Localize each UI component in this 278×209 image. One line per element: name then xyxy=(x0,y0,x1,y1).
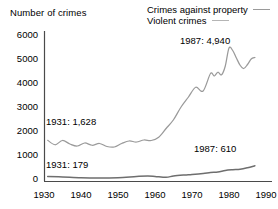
crime-statistics-line-chart: Number of crimes Crimes against property… xyxy=(0,0,278,209)
series-line-crimes-against-property xyxy=(48,47,255,147)
chart-plot-area xyxy=(0,0,278,209)
series-line-violent-crimes xyxy=(48,166,255,178)
